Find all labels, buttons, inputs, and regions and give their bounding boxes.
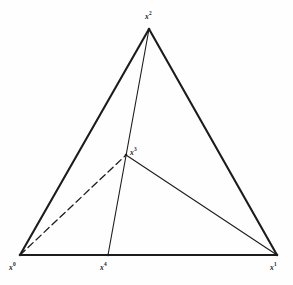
vertex-dot-x3 [125,154,128,157]
vertex-label-superscript-x1: 1 [274,261,277,267]
vertex-dot-x4 [107,254,110,257]
edge-x0-x2-left [20,29,149,255]
vertex-label-superscript-x0: 0 [13,261,16,267]
vertex-label-x0: x0 [9,262,15,271]
vertex-label-x1: x1 [270,262,276,271]
figure-canvas: x0x1x2x3x4 [0,0,293,285]
vertex-dot-x2 [148,28,151,31]
diagram-svg [0,0,293,285]
edge-x2-x1-right [149,29,277,255]
vertex-label-superscript-x4: 4 [104,261,107,267]
vertex-dot-layer [19,28,279,257]
vertex-label-superscript-x2: 2 [149,10,152,16]
vertex-label-x3: x3 [130,147,136,156]
vertex-dot-x0 [19,254,22,257]
vertex-label-x2: x2 [145,11,151,20]
vertex-dot-x1 [276,254,279,257]
vertex-label-superscript-x3: 3 [134,146,137,152]
vertex-label-x4: x4 [100,262,106,271]
edge-x0-x3-hidden [20,155,126,255]
edge-x3-x1-inner [126,155,277,255]
edge-layer [20,29,277,255]
